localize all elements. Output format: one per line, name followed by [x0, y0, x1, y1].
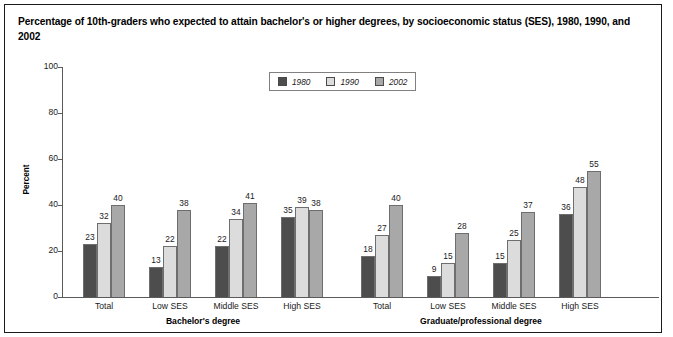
y-tick-label: 100	[28, 61, 58, 71]
bar-1980-middle-ses	[493, 263, 507, 298]
bar-2002-middle-ses	[521, 212, 535, 297]
bar-value-label: 38	[303, 198, 329, 208]
legend-label: 1980	[292, 77, 310, 87]
bar-1990-low-ses	[441, 263, 455, 298]
bar-2002-high-ses	[309, 210, 323, 297]
group-label-high-ses: High SES	[262, 301, 342, 311]
y-tick-80: 80	[23, 107, 58, 118]
y-tick-mark	[58, 67, 62, 68]
bar-2002-total	[111, 205, 125, 297]
y-axis-label: Percent	[22, 150, 31, 210]
bar-1980-middle-ses	[215, 246, 229, 297]
bar-value-label: 28	[449, 221, 475, 231]
bar-value-label: 40	[383, 193, 409, 203]
y-axis-line	[62, 67, 63, 298]
bar-1980-high-ses	[559, 214, 573, 297]
bar-2002-middle-ses	[243, 203, 257, 297]
bar-2002-high-ses	[587, 171, 601, 298]
section-label-bachelors: Bachelor's degree	[103, 316, 303, 326]
y-tick-label: 80	[28, 107, 58, 117]
bar-1990-middle-ses	[229, 219, 243, 297]
bar-2002-low-ses	[177, 210, 191, 297]
bar-1980-high-ses	[281, 217, 295, 298]
legend-label: 1990	[340, 77, 358, 87]
legend-item-1990[interactable]: 1990	[326, 77, 358, 87]
bar-1990-low-ses	[163, 246, 177, 297]
y-tick-100: 100	[23, 61, 58, 72]
bar-1990-total	[97, 223, 111, 297]
bar-1980-total	[361, 256, 375, 297]
bar-1990-high-ses	[295, 207, 309, 297]
figure-frame: Percentage of 10th-graders who expected …	[4, 4, 662, 333]
legend-swatch-icon	[326, 77, 335, 86]
bar-1980-total	[83, 244, 97, 297]
bar-1980-low-ses	[149, 267, 163, 297]
x-axis-line	[62, 297, 659, 298]
group-label-high-ses: High SES	[540, 301, 620, 311]
y-tick-20: 20	[23, 245, 58, 256]
bar-1990-total	[375, 235, 389, 297]
y-tick-mark	[58, 205, 62, 206]
bar-value-label: 38	[171, 198, 197, 208]
bar-value-label: 40	[105, 193, 131, 203]
y-tick-label: 0	[28, 291, 58, 301]
bar-2002-total	[389, 205, 403, 297]
section-label-graduate: Graduate/professional degree	[381, 316, 581, 326]
chart-legend: 198019902002	[269, 72, 416, 91]
y-tick-mark	[58, 113, 62, 114]
legend-item-2002[interactable]: 2002	[375, 77, 407, 87]
bar-1990-middle-ses	[507, 240, 521, 298]
y-tick-mark	[58, 159, 62, 160]
legend-swatch-icon	[375, 77, 384, 86]
legend-swatch-icon	[278, 77, 287, 86]
bar-2002-low-ses	[455, 233, 469, 297]
legend-label: 2002	[389, 77, 407, 87]
y-tick-0: 0	[23, 291, 58, 302]
y-tick-label: 60	[28, 153, 58, 163]
bar-value-label: 37	[515, 200, 541, 210]
legend-item-1980[interactable]: 1980	[278, 77, 310, 87]
bar-1980-low-ses	[427, 276, 441, 297]
y-tick-label: 40	[28, 199, 58, 209]
chart-plot-area: 020406080100 Percent 198019902002 233240…	[5, 5, 663, 334]
bar-value-label: 55	[581, 159, 607, 169]
y-tick-mark	[58, 251, 62, 252]
bar-1990-high-ses	[573, 187, 587, 297]
y-tick-label: 20	[28, 245, 58, 255]
bar-value-label: 41	[237, 191, 263, 201]
y-tick-mark	[58, 297, 62, 298]
